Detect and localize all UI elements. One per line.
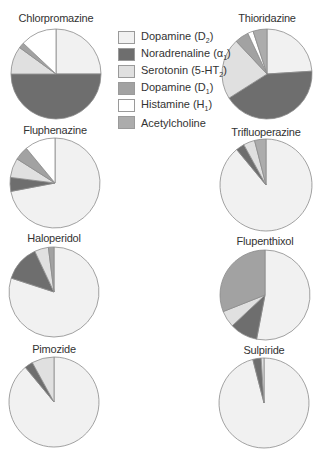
- legend-label: Dopamine (D1): [141, 81, 213, 95]
- pie-chart-haloperidol: [7, 245, 101, 339]
- legend-swatch-acetylcholine: [118, 116, 135, 129]
- legend-item-dopamine-d1: Dopamine (D1): [118, 80, 231, 97]
- legend: Dopamine (D2) Noradrenaline (α1) Seroton…: [118, 29, 231, 131]
- pie-chart-flupenthixol: [218, 248, 312, 342]
- chart-title-sulpiride: Sulpiride: [209, 344, 317, 356]
- pie-slice-na: [11, 74, 101, 119]
- chart-title-chlorpromazine: Chlorpromazine: [1, 12, 111, 24]
- legend-label: Noradrenaline (α1): [141, 47, 231, 61]
- pie-chart-pimozide: [7, 355, 101, 449]
- legend-label: Serotonin (5-HT2): [141, 64, 227, 78]
- legend-item-noradrenaline: Noradrenaline (α1): [118, 46, 231, 63]
- legend-label: Acetylcholine: [141, 117, 206, 129]
- pie-chart-trifluoperazine: [218, 137, 314, 233]
- legend-swatch-noradrenaline: [118, 48, 135, 61]
- chart-title-fluphenazine: Fluphenazine: [0, 124, 110, 136]
- chart-title-flupenthixol: Flupenthixol: [210, 235, 317, 247]
- pie-chart-thioridazine: [220, 27, 314, 121]
- chart-title-thioridazine: Thioridazine: [212, 12, 317, 24]
- legend-label: Histamine (H1): [141, 98, 212, 112]
- legend-item-histamine: Histamine (H1): [118, 97, 231, 114]
- legend-label: Dopamine (D2): [141, 30, 213, 44]
- legend-swatch-dopamine-d2: [118, 31, 135, 44]
- pie-chart-sulpiride: [217, 356, 311, 450]
- legend-item-serotonin: Serotonin (5-HT2): [118, 63, 231, 80]
- chart-title-pimozide: Pimozide: [0, 343, 109, 355]
- pie-chart-fluphenazine: [8, 136, 102, 230]
- pie-chart-chlorpromazine: [9, 27, 103, 121]
- legend-swatch-dopamine-d1: [118, 82, 135, 95]
- legend-item-acetylcholine: Acetylcholine: [118, 114, 231, 131]
- legend-swatch-histamine: [118, 99, 135, 112]
- legend-item-dopamine-d2: Dopamine (D2): [118, 29, 231, 46]
- chart-title-haloperidol: Haloperidol: [0, 232, 109, 244]
- pie-slice-d2: [267, 29, 312, 74]
- pie-slice-d2: [56, 29, 101, 74]
- legend-swatch-serotonin: [118, 65, 135, 78]
